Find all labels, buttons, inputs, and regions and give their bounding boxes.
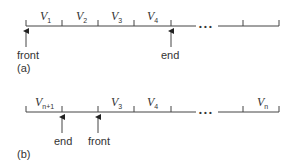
circular-queue-diagram: V1 V2 V3 V4 • • • front end (a) Vn+1 V3 …: [0, 0, 293, 161]
end-pointer-label: end: [161, 49, 179, 61]
diagram-b: Vn+1 V3 V4 Vn • • • end front (b): [17, 95, 279, 160]
front-pointer-label: front: [88, 135, 110, 147]
front-pointer-label: front: [17, 49, 39, 61]
cell-label-v4: V4: [147, 9, 158, 24]
cell-label-v3: V3: [111, 9, 122, 24]
ellipsis: • • •: [199, 108, 212, 117]
cell-label-v3: V3: [111, 95, 122, 110]
caption-b: (b): [17, 148, 30, 160]
cell-label-vn: Vn: [257, 95, 268, 110]
end-pointer-label: end: [54, 135, 72, 147]
cell-label-vn1: Vn+1: [35, 95, 54, 110]
cell-label-v2: V2: [76, 9, 87, 24]
cell-label-v1: V1: [40, 9, 51, 24]
diagram-a: V1 V2 V3 V4 • • • front end (a): [17, 9, 279, 74]
cell-label-v4: V4: [147, 95, 158, 110]
ellipsis: • • •: [199, 22, 212, 31]
caption-a: (a): [17, 62, 30, 74]
